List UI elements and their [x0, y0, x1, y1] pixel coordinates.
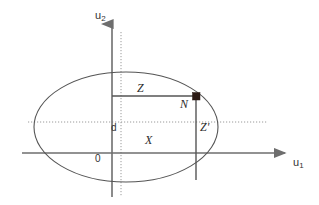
diagram-canvas: [0, 0, 319, 205]
point-n-marker: [193, 93, 201, 101]
label-n: N: [180, 98, 188, 110]
label-d: d: [111, 123, 117, 133]
axis-label-u1: u1: [293, 157, 304, 170]
figure-root: u2 u1 Z N Z' d X 0: [0, 0, 319, 205]
label-origin: 0: [95, 154, 101, 164]
axis-label-u2: u2: [95, 10, 106, 23]
axis-label-u1-sub: 1: [299, 161, 303, 170]
ellipse-region-x: [34, 72, 218, 182]
label-z: Z: [137, 82, 144, 94]
label-x-region: X: [145, 134, 152, 146]
axis-label-u2-sub: 2: [101, 14, 105, 23]
label-z-prime: Z': [200, 121, 209, 133]
